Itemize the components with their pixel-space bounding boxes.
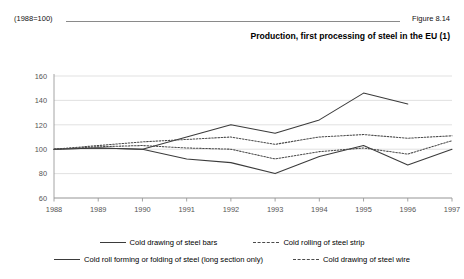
legend-label: Cold roll forming or folding of steel (l… xyxy=(84,255,263,264)
series-line-0 xyxy=(54,93,408,149)
series-line-3 xyxy=(54,141,452,159)
series-line-2 xyxy=(54,146,452,174)
series-line-1 xyxy=(54,135,452,150)
legend-row-1: Cold drawing of steel bars Cold rolling … xyxy=(0,235,464,249)
y-axis-tick-label: 100 xyxy=(35,145,47,154)
y-axis-tick-label: 80 xyxy=(39,169,47,178)
legend-swatch-solid xyxy=(54,259,80,260)
y-axis-tick-label: 160 xyxy=(35,72,47,81)
legend-item-cold-drawing-steel-bars: Cold drawing of steel bars xyxy=(100,238,218,247)
x-axis-tick-label: 1991 xyxy=(178,205,194,214)
legend-swatch-dashed xyxy=(293,259,319,260)
x-axis-tick-label: 1997 xyxy=(444,205,460,214)
y-axis-tick-label: 60 xyxy=(39,194,47,203)
legend-swatch-dashed xyxy=(253,242,279,243)
legend-item-cold-roll-forming-folding: Cold roll forming or folding of steel (l… xyxy=(54,255,263,264)
plot-area: 6080100120140160198819891990199119921993… xyxy=(0,62,464,217)
legend-item-cold-rolling-steel-strip: Cold rolling of steel strip xyxy=(253,238,364,247)
x-axis-tick-label: 1994 xyxy=(311,205,327,214)
legend-label: Cold drawing of steel wire xyxy=(323,255,410,264)
x-axis-tick-label: 1993 xyxy=(267,205,283,214)
chart-legend: Cold drawing of steel bars Cold rolling … xyxy=(0,231,464,271)
legend-row-2: Cold roll forming or folding of steel (l… xyxy=(0,252,464,266)
figure-header: (1988=100) Figure 8.14 xyxy=(0,14,464,28)
y-axis-tick-label: 120 xyxy=(35,121,47,130)
figure-number-label: Figure 8.14 xyxy=(412,14,450,23)
x-axis-tick-label: 1989 xyxy=(90,205,106,214)
index-note: (1988=100) xyxy=(14,14,53,23)
x-axis-tick-label: 1995 xyxy=(355,205,371,214)
legend-label: Cold drawing of steel bars xyxy=(130,238,218,247)
x-axis-tick-label: 1990 xyxy=(134,205,150,214)
chart-title: Production, first processing of steel in… xyxy=(250,31,450,41)
x-axis-tick-label: 1996 xyxy=(400,205,416,214)
legend-item-cold-drawing-steel-wire: Cold drawing of steel wire xyxy=(293,255,410,264)
header-divider xyxy=(66,21,400,22)
x-axis-tick-label: 1992 xyxy=(223,205,239,214)
line-chart: 6080100120140160198819891990199119921993… xyxy=(0,62,464,217)
figure-container: (1988=100) Figure 8.14 Production, first… xyxy=(0,0,464,279)
y-axis-tick-label: 140 xyxy=(35,96,47,105)
legend-label: Cold rolling of steel strip xyxy=(283,238,364,247)
legend-swatch-solid xyxy=(100,242,126,243)
x-axis-tick-label: 1988 xyxy=(46,205,62,214)
